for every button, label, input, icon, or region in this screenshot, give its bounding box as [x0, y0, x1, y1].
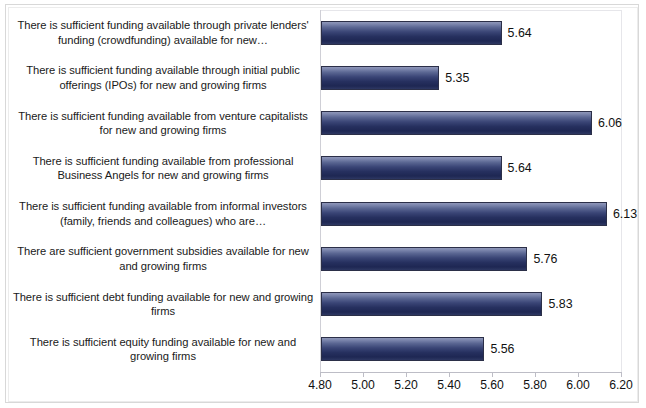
bar[interactable] — [321, 202, 607, 226]
bar-row: 5.64 — [321, 21, 622, 45]
x-axis-line — [320, 372, 622, 373]
bar-value-label: 5.76 — [527, 252, 557, 266]
bar-row: 5.76 — [321, 247, 622, 271]
bar[interactable] — [321, 156, 502, 180]
category-label-row: There is sufficient equity funding avail… — [12, 327, 318, 372]
bar-row: 5.56 — [321, 337, 622, 361]
category-label-row: There is sufficient debt funding availab… — [12, 282, 318, 327]
category-label: There are sufficient government subsidie… — [12, 244, 318, 273]
bar[interactable] — [321, 111, 592, 135]
category-label-row: There is sufficient funding available fr… — [12, 191, 318, 236]
category-label: There is sufficient funding available th… — [12, 63, 318, 92]
x-axis-tick — [363, 372, 364, 377]
category-label-row: There is sufficient funding available th… — [12, 10, 318, 55]
bar[interactable] — [321, 21, 502, 45]
x-axis-tick-label: 4.80 — [308, 378, 332, 392]
category-label-row: There is sufficient funding available fr… — [12, 101, 318, 146]
bar-value-label: 6.13 — [607, 207, 637, 221]
category-label-row: There are sufficient government subsidie… — [12, 236, 318, 281]
category-label: There is sufficient equity funding avail… — [12, 335, 318, 364]
category-label: There is sufficient funding available fr… — [12, 109, 318, 138]
x-axis-tick — [621, 372, 622, 377]
category-label-row: There is sufficient funding available th… — [12, 55, 318, 100]
x-axis-tick — [320, 372, 321, 377]
x-axis-tick — [535, 372, 536, 377]
x-axis-tick-label: 5.00 — [351, 378, 375, 392]
category-label: There is sufficient funding available fr… — [12, 154, 318, 183]
bar-value-label: 5.64 — [502, 26, 532, 40]
x-axis-tick — [492, 372, 493, 377]
bar-row: 6.13 — [321, 202, 622, 226]
category-label: There is sufficient funding available fr… — [12, 199, 318, 228]
bar[interactable] — [321, 337, 484, 361]
bar-value-label: 5.64 — [502, 161, 532, 175]
bar-row: 5.83 — [321, 292, 622, 316]
category-axis-labels: There is sufficient funding available th… — [12, 10, 318, 372]
x-axis-tick-label: 5.80 — [523, 378, 547, 392]
bar[interactable] — [321, 292, 542, 316]
bar-value-label: 6.06 — [592, 116, 622, 130]
x-axis-tick-label: 5.40 — [437, 378, 461, 392]
bar-value-label: 5.56 — [484, 342, 514, 356]
bar-chart: There is sufficient funding available th… — [0, 0, 646, 408]
bar-value-label: 5.35 — [439, 71, 469, 85]
bar-row: 5.35 — [321, 66, 622, 90]
x-axis-tick-label: 6.20 — [609, 378, 633, 392]
bar[interactable] — [321, 66, 439, 90]
x-axis-tick-label: 5.60 — [480, 378, 504, 392]
bar[interactable] — [321, 247, 527, 271]
x-axis-tick-label: 6.00 — [566, 378, 590, 392]
x-axis-tick — [449, 372, 450, 377]
category-label-row: There is sufficient funding available fr… — [12, 146, 318, 191]
bar-row: 6.06 — [321, 111, 622, 135]
bar-row: 5.64 — [321, 156, 622, 180]
plot-area: 5.645.356.065.646.135.765.835.56 — [320, 10, 621, 372]
x-axis-tick — [406, 372, 407, 377]
category-label: There is sufficient funding available th… — [12, 18, 318, 47]
category-label: There is sufficient debt funding availab… — [12, 290, 318, 319]
bar-value-label: 5.83 — [542, 297, 572, 311]
x-axis-tick-label: 5.20 — [394, 378, 418, 392]
x-axis-tick — [578, 372, 579, 377]
